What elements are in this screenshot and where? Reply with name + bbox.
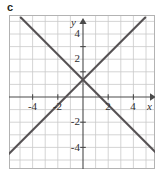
line-y-equals-neg-x-plus-2	[21, 18, 155, 154]
plot-area: y 4 2 -2 -4 -4 -2 2 4 x	[9, 15, 155, 169]
grid-lines	[9, 15, 155, 169]
x-axis-label: x	[147, 101, 152, 112]
graph-figure: c	[0, 0, 159, 180]
plot-frame	[10, 16, 155, 169]
x-tick-label-4: 4	[128, 101, 138, 112]
y-tick-label-4: 4	[70, 28, 80, 39]
y-tick-label-2: 2	[70, 53, 80, 64]
y-tick-label-neg-4: -4	[63, 142, 80, 153]
x-tick-label-neg-2: -2	[49, 101, 66, 112]
x-tick-label-neg-4: -4	[24, 101, 41, 112]
y-tick-label-neg-2: -2	[63, 116, 80, 127]
coordinate-plane	[9, 15, 155, 169]
x-tick-label-2: 2	[103, 101, 113, 112]
part-label: c	[7, 1, 13, 13]
